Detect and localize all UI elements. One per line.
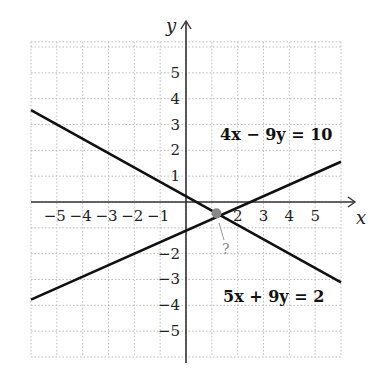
y-tick-label: 2 [170, 141, 180, 159]
y-tick-label: 4 [170, 90, 180, 108]
x-axis-label: x [356, 207, 366, 228]
x-tick-label: 3 [259, 207, 269, 225]
y-axis-label: y [165, 15, 177, 36]
equation-label-1: 4x − 9y = 10 [220, 125, 332, 144]
x-tick-label: −4 [70, 207, 92, 225]
y-tick-label: −5 [158, 322, 180, 340]
x-tick-label: −1 [147, 207, 169, 225]
y-tick-label: −4 [158, 296, 180, 314]
x-tick-label: 5 [310, 207, 320, 225]
y-tick-label: −3 [158, 270, 180, 288]
x-tick-label: −2 [121, 207, 143, 225]
x-tick-label: −5 [44, 207, 66, 225]
coordinate-plane: x y −5−4−3−2−1234554321−2−3−4−5 4x − 9y … [0, 0, 383, 386]
x-tick-label: −3 [95, 207, 117, 225]
y-tick-label: 1 [170, 167, 180, 185]
y-tick-label: 3 [170, 116, 180, 134]
intersection-pointer [219, 223, 224, 240]
y-tick-label: 5 [170, 64, 180, 82]
y-tick-label: −2 [158, 245, 180, 263]
intersection-point [212, 208, 222, 218]
intersection-question-label: ? [222, 241, 230, 257]
axes: x y [31, 15, 366, 363]
equation-label-2: 5x + 9y = 2 [223, 287, 324, 306]
x-tick-label: 4 [285, 207, 295, 225]
